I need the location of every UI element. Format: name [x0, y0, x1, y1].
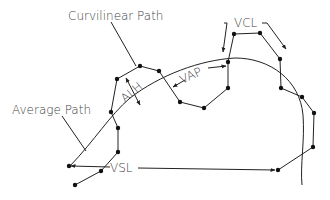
alh-label: ALH [118, 79, 145, 105]
vsl-label: VSL [110, 161, 133, 175]
motility-diagram: VSL VAP ALH VCL Curvilinear Path Average… [0, 0, 330, 200]
vcl-bracket-right [262, 23, 286, 49]
vap-label: VAP [177, 64, 204, 86]
vcl-bracket-left [223, 23, 227, 52]
average-path-label: Average Path [12, 103, 91, 117]
curvilinear-path-leader [111, 22, 136, 66]
curvilinear-points [67, 31, 316, 187]
vsl-line [71, 166, 110, 167]
curvilinear-path-label: Curvilinear Path [68, 9, 163, 23]
vap-arrow-right [208, 66, 226, 68]
average-path-leader [62, 116, 86, 151]
vsl-line-right [138, 168, 275, 170]
vcl-label: VCL [234, 16, 258, 30]
